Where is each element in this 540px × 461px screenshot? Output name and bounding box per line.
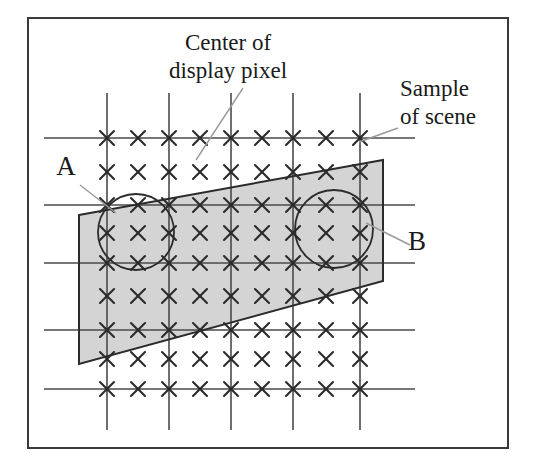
x-mark-icon <box>255 352 269 366</box>
leader-sample-of-scene <box>359 128 398 142</box>
x-mark-icon <box>193 352 207 366</box>
x-mark-icon <box>131 165 145 179</box>
x-mark-icon <box>255 165 269 179</box>
label-center-of-display-pixel-line2: display pixel <box>169 58 287 83</box>
label-point-b: B <box>408 226 426 256</box>
x-mark-icon <box>131 352 145 366</box>
figure-root: Center of display pixel Sample of scene … <box>0 0 540 461</box>
sampling-diagram: Center of display pixel Sample of scene … <box>0 0 540 461</box>
x-mark-icon <box>193 165 207 179</box>
x-mark-icon <box>319 352 333 366</box>
leader-point-a <box>80 185 116 213</box>
label-center-of-display-pixel-line1: Center of <box>185 30 272 55</box>
leader-center-of-display-pixel <box>196 88 243 160</box>
label-point-a: A <box>56 151 76 181</box>
label-sample-of-scene-line2: of scene <box>400 104 476 129</box>
label-sample-of-scene-line1: Sample <box>400 76 469 101</box>
